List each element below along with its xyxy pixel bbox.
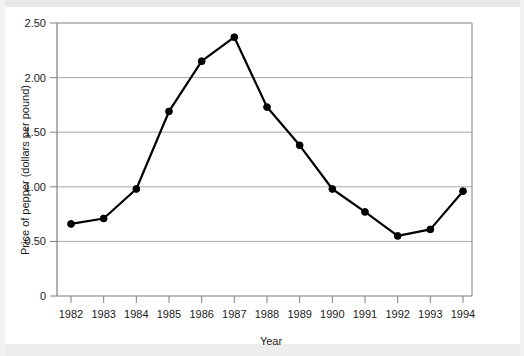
x-axis-tick-labels: 1982198319841985198619871988198919901991… bbox=[59, 308, 475, 320]
x-axis-tick-label: 1994 bbox=[451, 308, 475, 320]
line-chart: 00.501.001.502.002.50 198219831984198519… bbox=[0, 0, 524, 356]
chart-svg: 00.501.001.502.002.50 198219831984198519… bbox=[0, 0, 524, 356]
x-axis-tick-label: 1985 bbox=[157, 308, 181, 320]
y-axis-tick-label: 2.00 bbox=[25, 72, 46, 84]
gridlines bbox=[57, 23, 472, 241]
y-axis-ticks bbox=[50, 23, 57, 296]
y-axis-tick-label: 0 bbox=[40, 290, 46, 302]
x-axis-tick-label: 1990 bbox=[320, 308, 344, 320]
x-axis-tick-label: 1991 bbox=[353, 308, 377, 320]
data-point bbox=[166, 108, 173, 115]
x-axis-tick-label: 1988 bbox=[255, 308, 279, 320]
data-line bbox=[71, 37, 463, 236]
data-point bbox=[100, 215, 107, 222]
y-axis-title: Price of pepper (dollars per pound) bbox=[19, 85, 31, 255]
data-point bbox=[264, 104, 271, 111]
x-axis-ticks bbox=[71, 296, 463, 303]
x-axis-tick-label: 1987 bbox=[222, 308, 246, 320]
x-axis-tick-label: 1989 bbox=[287, 308, 311, 320]
x-axis-title: Year bbox=[260, 335, 283, 347]
x-axis-tick-label: 1992 bbox=[385, 308, 409, 320]
data-point bbox=[198, 58, 205, 65]
y-axis-tick-label: 2.50 bbox=[25, 17, 46, 29]
chart-page: 00.501.001.502.002.50 198219831984198519… bbox=[0, 0, 524, 356]
x-axis-line bbox=[57, 23, 472, 296]
data-point bbox=[362, 209, 369, 216]
data-point bbox=[427, 226, 434, 233]
data-point bbox=[296, 142, 303, 149]
series-line bbox=[71, 37, 463, 236]
data-point bbox=[133, 186, 140, 193]
data-markers bbox=[68, 34, 467, 240]
x-axis-tick-label: 1984 bbox=[124, 308, 148, 320]
x-axis-tick-label: 1986 bbox=[189, 308, 213, 320]
x-axis-tick-label: 1983 bbox=[91, 308, 115, 320]
data-point bbox=[394, 233, 401, 240]
x-axis-tick-label: 1982 bbox=[59, 308, 83, 320]
data-point bbox=[460, 188, 467, 195]
data-point bbox=[231, 34, 238, 41]
data-point bbox=[68, 221, 75, 228]
data-point bbox=[329, 186, 336, 193]
x-axis-tick-label: 1993 bbox=[418, 308, 442, 320]
